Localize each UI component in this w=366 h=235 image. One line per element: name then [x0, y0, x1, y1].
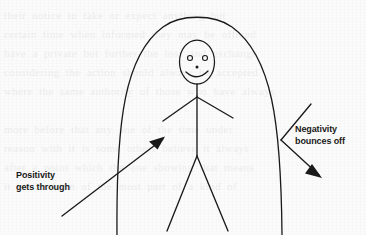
figure-left-leg [167, 156, 197, 231]
figure-left-arm [163, 97, 197, 121]
figure-nose [196, 66, 199, 69]
figure-right-eye [203, 56, 208, 61]
figure-right-arm [197, 97, 233, 118]
negativity-arrowhead-icon [305, 164, 322, 178]
figure-right-leg [197, 156, 228, 231]
positivity-label: Positivity gets through [16, 170, 70, 193]
figure-left-eye [188, 56, 193, 61]
stick-figure-shield-drawing [0, 0, 366, 235]
figure-head [180, 40, 215, 84]
positivity-arrow-line [62, 139, 163, 216]
diagram-canvas: their notice to take or expect anything … [0, 0, 366, 235]
protective-arch-shape [117, 17, 282, 235]
negativity-label: Negativity bounces off [295, 124, 345, 147]
figure-smile-icon [186, 71, 208, 77]
